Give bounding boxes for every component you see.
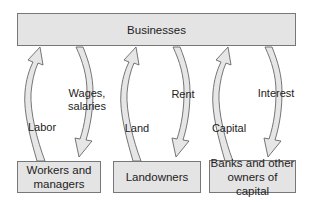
rent-arrow: [172, 47, 190, 157]
labor-arrow: [25, 47, 45, 161]
wages-label: Wages, salaries: [64, 87, 110, 113]
landowners-label: Landowners: [126, 170, 189, 184]
landowners-box: Landowners: [113, 161, 201, 193]
labor-label: Labor: [22, 121, 62, 134]
rent-label: Rent: [166, 88, 200, 101]
wages-label-line1: Wages,: [64, 87, 110, 100]
capital-arrow: [213, 47, 233, 161]
land-label: Land: [120, 122, 154, 135]
banks-box: Banks and other owners of capital: [209, 160, 296, 193]
wages-label-line2: salaries: [64, 100, 110, 113]
banks-label-line1: Banks and other: [210, 156, 295, 170]
interest-label: Interest: [254, 87, 298, 100]
workers-label-line1: Workers and: [27, 163, 92, 177]
businesses-label: Businesses: [127, 23, 186, 37]
workers-label-line2: managers: [27, 177, 92, 191]
banks-label-line2: owners of capital: [210, 170, 295, 198]
interest-arrow: [264, 47, 282, 157]
land-arrow: [121, 47, 141, 161]
workers-box: Workers and managers: [17, 161, 101, 193]
businesses-box: Businesses: [17, 13, 296, 46]
capital-label: Capital: [208, 122, 250, 135]
